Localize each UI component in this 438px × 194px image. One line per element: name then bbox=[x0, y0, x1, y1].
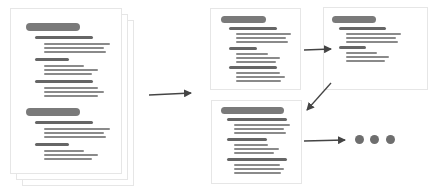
ellipsis-dot-icon bbox=[386, 135, 395, 144]
arrow-stack-to-chunk1 bbox=[149, 93, 191, 95]
ellipsis-dot-icon bbox=[370, 135, 379, 144]
arrow-chunk3-to-continuation bbox=[304, 140, 345, 141]
ellipsis-dot-icon bbox=[355, 135, 364, 144]
arrow-chunk2-to-chunk3 bbox=[307, 83, 331, 110]
arrows-layer bbox=[0, 0, 438, 194]
arrow-chunk1-to-chunk2 bbox=[304, 49, 331, 50]
